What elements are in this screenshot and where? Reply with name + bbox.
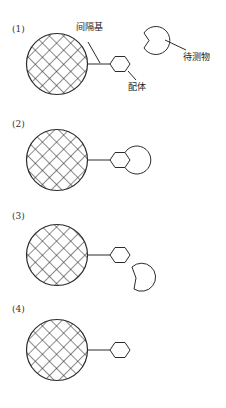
panel-1: (1) 间隔基 配体 待测物 xyxy=(12,21,210,95)
bound-analyte-icon xyxy=(125,146,151,174)
ligand-hexagon-icon xyxy=(110,57,130,72)
ligand-leader-line xyxy=(128,71,136,80)
panel-3: (3) xyxy=(12,211,156,291)
ligand-label: 配体 xyxy=(128,81,146,92)
analyte-icon xyxy=(132,263,156,291)
ligand-hexagon-icon xyxy=(110,153,130,168)
panel-label: (2) xyxy=(12,119,25,129)
binding-diagram: (1) 间隔基 配体 待测物 (2) (3) (4) xyxy=(0,0,226,408)
panel-label: (1) xyxy=(12,24,25,34)
panel-label: (3) xyxy=(12,211,25,221)
analyte-leader-line xyxy=(165,40,186,50)
panel-2: (2) xyxy=(12,119,151,191)
spacer-leader-line xyxy=(88,42,100,63)
spacer-label: 间隔基 xyxy=(76,21,103,32)
panel-label: (4) xyxy=(12,304,25,314)
analyte-label: 待测物 xyxy=(183,51,210,62)
ligand-hexagon-icon xyxy=(110,343,130,358)
ligand-hexagon-icon xyxy=(110,248,130,263)
panel-4: (4) xyxy=(12,304,130,381)
